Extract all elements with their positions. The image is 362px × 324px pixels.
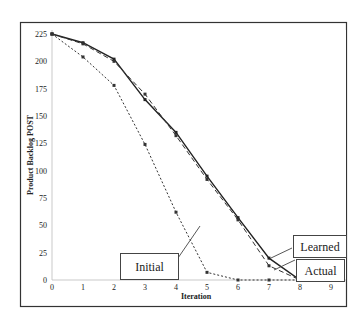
data-point-marker [268, 279, 271, 282]
y-tick: 100 [35, 167, 47, 176]
x-tick: 6 [236, 283, 240, 292]
x-axis-label: Iteration [181, 292, 212, 301]
data-point-marker [144, 93, 147, 96]
y-tick: 150 [35, 112, 47, 121]
y-tick: 75 [39, 194, 47, 203]
data-point-marker [206, 271, 209, 274]
data-point-marker [113, 60, 116, 63]
x-tick: 9 [329, 283, 333, 292]
data-point-marker [113, 84, 116, 87]
data-point-marker [82, 55, 85, 58]
y-tick: 200 [35, 57, 47, 66]
x-tick: 5 [205, 283, 209, 292]
x-tick: 0 [50, 283, 54, 292]
x-tick: 3 [143, 283, 147, 292]
y-tick: 225 [35, 30, 47, 39]
y-tick: 125 [35, 139, 47, 148]
callout-label: Actual [305, 264, 338, 278]
x-tick: 1 [81, 283, 85, 292]
data-point-marker [237, 279, 240, 282]
data-point-marker [82, 42, 85, 45]
x-tick: 4 [174, 283, 178, 292]
y-tick: 50 [39, 221, 47, 230]
data-point-marker [144, 143, 147, 146]
callout-label: Learned [300, 240, 339, 254]
callout-label: Initial [135, 260, 164, 274]
data-point-marker [268, 264, 271, 267]
x-tick: 7 [267, 283, 271, 292]
data-point-marker [237, 218, 240, 221]
data-point-marker [206, 178, 209, 181]
x-tick: 2 [112, 283, 116, 292]
y-tick: 25 [39, 249, 47, 258]
data-point-marker [144, 98, 147, 101]
data-point-marker [51, 33, 54, 36]
data-point-marker [175, 134, 178, 137]
y-tick: 175 [35, 85, 47, 94]
y-axis-label: Product Backlog POST [26, 114, 35, 195]
data-point-marker [175, 211, 178, 214]
x-tick: 8 [298, 283, 302, 292]
backlog-line-chart: 0255075100125150175200225 0123456789 Pro… [0, 0, 362, 324]
data-point-marker [268, 257, 271, 260]
y-tick: 0 [43, 276, 47, 285]
